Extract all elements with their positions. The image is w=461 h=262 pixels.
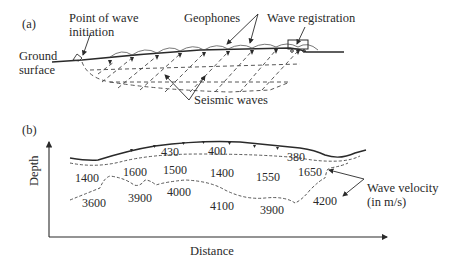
velocity-value: 380 xyxy=(287,151,305,163)
seismic-waves-label: Seismic waves xyxy=(194,94,268,107)
diagram-canvas xyxy=(0,0,461,262)
depth-axis-label: Depth xyxy=(28,155,41,186)
wave-velocity-label-line1: Wave velocity xyxy=(367,182,439,195)
velocity-value: 4200 xyxy=(313,195,337,207)
velocity-value: 1550 xyxy=(256,171,280,183)
velocity-value: 3900 xyxy=(260,204,284,216)
ground-surface-line xyxy=(52,48,344,62)
velocity-value: 400 xyxy=(208,145,226,157)
velocity-value: 1400 xyxy=(75,172,99,184)
velocity-value: 3600 xyxy=(82,197,106,209)
panel-b-label: (b) xyxy=(22,124,37,137)
velocity-value: 430 xyxy=(161,146,179,158)
wave-velocity-arrows xyxy=(329,170,364,196)
velocity-value: 1650 xyxy=(298,166,322,178)
velocity-value: 1400 xyxy=(210,167,234,179)
panel-a-label: (a) xyxy=(22,18,36,31)
point-of-wave-label-line1: Point of wave xyxy=(69,12,138,25)
ground-surface-label-line1: Ground xyxy=(19,50,57,63)
geophone-markers xyxy=(108,49,300,65)
velocity-value: 1500 xyxy=(163,164,187,176)
velocity-value: 3900 xyxy=(128,192,152,204)
point-of-wave-label-line2: initiation xyxy=(69,26,114,39)
distance-axis-label: Distance xyxy=(190,245,234,258)
wave-registration-label: Wave registration xyxy=(267,12,355,25)
ground-surface-label-line2: surface xyxy=(19,64,55,77)
velocity-value: 4000 xyxy=(167,186,191,198)
velocity-value: 1600 xyxy=(123,166,147,178)
velocity-value: 4100 xyxy=(210,200,234,212)
geophones-label: Geophones xyxy=(184,12,240,25)
wave-velocity-label-line2: (in m/s) xyxy=(367,196,406,209)
